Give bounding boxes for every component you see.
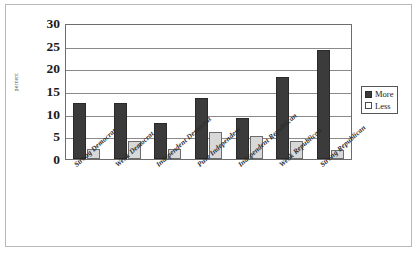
y-tick-label: 5 [22, 131, 60, 145]
legend-label-more: More [375, 90, 393, 99]
y-tick-label: 30 [22, 17, 60, 31]
y-tick-label: 15 [22, 85, 60, 99]
legend-swatch-more-icon [365, 91, 372, 98]
figure-frame: percent 302520151050 Strong DemocratWeak… [5, 4, 412, 247]
y-tick-label: 10 [22, 108, 60, 122]
y-tick-label: 0 [22, 153, 60, 167]
legend-item-more: More [365, 90, 393, 99]
y-axis-title: percent [13, 60, 19, 104]
y-tick-label: 20 [22, 63, 60, 77]
bar-more [317, 50, 330, 159]
chart-figure: percent 302520151050 Strong DemocratWeak… [0, 0, 417, 256]
y-tick-label: 25 [22, 40, 60, 54]
legend-swatch-less-icon [365, 102, 372, 109]
y-axis-tick-labels: 302520151050 [22, 17, 60, 167]
legend-item-less: Less [365, 102, 393, 111]
chart-legend: More Less [361, 86, 398, 114]
legend-label-less: Less [375, 102, 391, 111]
x-axis-category-labels: Strong DemocratWeak DemocratIndependent … [65, 162, 352, 240]
